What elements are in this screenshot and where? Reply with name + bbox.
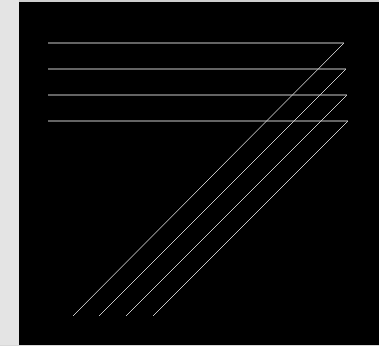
seven-line-1 [48, 43, 344, 316]
seven-line-3 [48, 95, 347, 316]
line-art [0, 0, 379, 356]
seven-line-2 [48, 69, 346, 316]
seven-line-4 [48, 121, 348, 316]
